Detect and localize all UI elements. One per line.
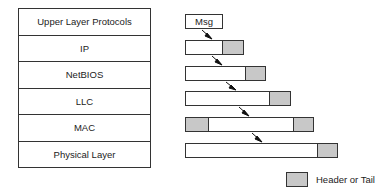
legend-label: Header or Tail <box>316 174 375 185</box>
encapsulation-arrows <box>0 0 391 188</box>
legend-swatch <box>286 172 308 187</box>
